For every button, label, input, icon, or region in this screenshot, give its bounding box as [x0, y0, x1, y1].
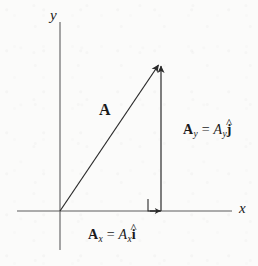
vector-component-figure: y x A Ay = Ay^j Ax = Ax^i [0, 0, 258, 266]
right-angle-marker [148, 199, 161, 211]
j-hat-unit-vector: ^j [227, 123, 232, 137]
hat-accent-icon: ^ [131, 221, 137, 234]
vector-ax-equation: Ax = Ax^i [88, 228, 136, 244]
ay-equals: = [202, 122, 210, 137]
hat-accent-icon: ^ [226, 116, 232, 129]
ay-bold-symbol: A [183, 122, 193, 137]
ax-scalar: A [119, 227, 128, 242]
vector-ay-equation: Ay = Ay^j [183, 123, 231, 139]
i-hat-unit-vector: ^i [132, 228, 136, 242]
y-axis-label: y [50, 8, 57, 23]
ax-bold-symbol: A [88, 227, 98, 242]
x-axis-label: x [239, 201, 246, 216]
ax-equals: = [107, 227, 115, 242]
vector-a-arrow [60, 65, 159, 211]
ay-scalar: A [214, 122, 223, 137]
vector-a-label: A [99, 102, 111, 118]
